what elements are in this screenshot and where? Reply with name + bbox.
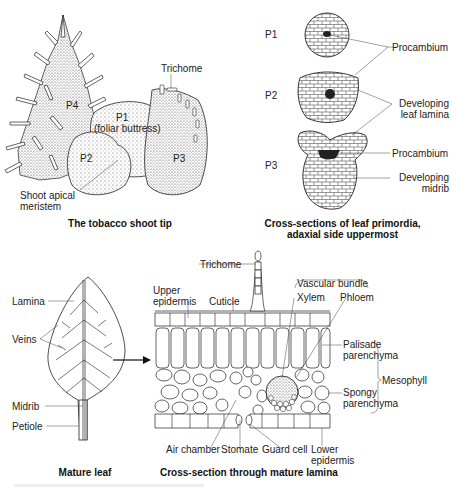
label-procambium-1: Procambium <box>392 42 448 53</box>
label-air-chamber: Air chamber <box>166 444 220 455</box>
caption-shoot-tip: The tobacco shoot tip <box>60 218 180 229</box>
label-upper-epidermis-2: epidermis <box>153 296 196 307</box>
label-midrib-2: midrib <box>392 183 449 194</box>
bleed-through-text <box>14 484 204 487</box>
caption-primordia-2: adaxial side uppermost <box>255 229 430 240</box>
label-spongy-2: parenchyma <box>343 398 398 409</box>
label-spongy-1: Spongy <box>343 387 377 398</box>
label-palisade-2: parenchyma <box>343 350 398 361</box>
label-p3: P3 <box>173 153 185 164</box>
label-trichome-tip: Trichome <box>161 63 202 74</box>
p2-procambium <box>325 89 335 99</box>
caption-mature-leaf: Mature leaf <box>50 467 120 478</box>
label-palisade-1: Palisade <box>343 339 381 350</box>
label-p2: P2 <box>80 153 92 164</box>
label-lower-epidermis-2: epidermis <box>311 455 354 466</box>
label-procambium-2: Procambium <box>392 148 448 159</box>
p3-primordium-drawing <box>145 85 208 195</box>
label-lamina-1: Developing <box>392 98 449 109</box>
label-upper-epidermis-1: Upper <box>153 285 180 296</box>
label-petiole: Petiole <box>12 421 43 432</box>
label-primordia-p1: P1 <box>265 29 277 40</box>
label-veins: Veins <box>12 334 36 345</box>
label-phloem: Phloem <box>340 292 374 303</box>
mature-leaf-drawing <box>48 277 125 440</box>
p3-cross-section <box>298 131 367 209</box>
label-p1: P1 <box>116 112 128 123</box>
label-lower-epidermis-1: Lower <box>311 444 338 455</box>
label-meristem-2: meristem <box>20 201 61 212</box>
label-meristem-1: Shoot apical <box>20 190 75 201</box>
label-lamina-2: leaf lamina <box>392 109 449 120</box>
label-trichome: Trichome <box>200 259 241 270</box>
diagram-drawings <box>0 0 457 491</box>
label-midrib: Midrib <box>12 401 39 412</box>
p1-procambium <box>323 31 331 37</box>
caption-lamina-section: Cross-section through mature lamina <box>160 467 320 478</box>
label-primordia-p3: P3 <box>265 160 277 171</box>
label-cuticle: Cuticle <box>209 296 240 307</box>
caption-primordia-1: Cross-sections of leaf primordia, <box>255 218 430 229</box>
label-p4: P4 <box>66 100 78 111</box>
label-xylem: Xylem <box>297 292 325 303</box>
label-primordia-p2: P2 <box>265 90 277 101</box>
label-guard-cell: Guard cell <box>262 444 308 455</box>
label-vascular-bundle: Vascular bundle <box>297 278 368 289</box>
label-p1-note: (foliar buttress) <box>94 123 161 134</box>
label-lamina: Lamina <box>12 296 45 307</box>
label-stomate: Stomate <box>221 444 258 455</box>
label-mesophyll: Mesophyll <box>382 375 427 386</box>
label-midrib-1: Developing <box>392 172 449 183</box>
